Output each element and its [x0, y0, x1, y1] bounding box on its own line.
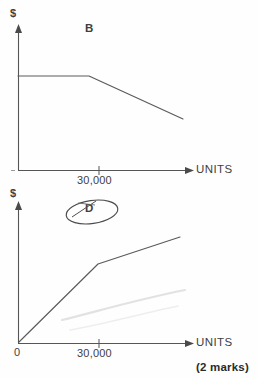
figure-graph-b: $ B 30,000 UNITS — [0, 0, 258, 190]
marks-note: (2 marks) — [196, 362, 249, 374]
x-axis-label-units-bottom: UNITS — [196, 337, 233, 349]
origin-label-zero: 0 — [14, 347, 20, 358]
x-axis-arrowhead-bottom — [185, 340, 194, 347]
scanned-exam-page: $ B 30,000 UNITS $ D — [0, 0, 258, 379]
x-tick-label-30000-bottom: 30,000 — [77, 348, 112, 359]
y-axis-arrowhead-top — [15, 24, 22, 33]
series-line-d — [19, 237, 180, 342]
graph-b-plot — [0, 0, 258, 190]
scan-smudge-artifact — [62, 290, 185, 320]
scan-smudge-artifact-secondary — [70, 306, 178, 330]
series-line-b — [18, 76, 183, 119]
y-axis-arrowhead-bottom — [15, 201, 22, 210]
figure-graph-d: $ D 0 30,000 UNITS — [0, 180, 258, 369]
x-axis-arrowhead-top — [185, 167, 194, 174]
x-axis-label-units-top: UNITS — [196, 164, 233, 176]
